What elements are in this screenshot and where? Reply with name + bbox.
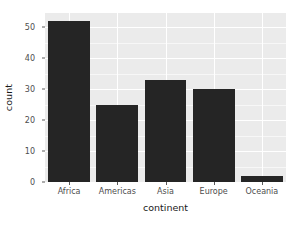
y-axis-title-label: count bbox=[4, 84, 15, 111]
y-axis-tick-label: 20 bbox=[25, 116, 35, 125]
bar bbox=[193, 89, 235, 182]
x-axis-tick-mark bbox=[214, 182, 215, 185]
x-axis-tick-label: Asia bbox=[157, 187, 174, 196]
bar bbox=[96, 105, 138, 182]
y-axis-tick-label: 10 bbox=[25, 147, 35, 156]
bar bbox=[145, 80, 187, 182]
x-axis-title: continent bbox=[45, 202, 286, 213]
gridline-major-vertical bbox=[262, 13, 263, 182]
y-axis-tick-label: 30 bbox=[25, 85, 35, 94]
x-axis-tick-label: Oceania bbox=[246, 187, 279, 196]
y-axis-tick-label: 40 bbox=[25, 54, 35, 63]
bar bbox=[48, 21, 90, 182]
x-axis-tick-mark bbox=[166, 182, 167, 185]
x-axis-tick-label: Africa bbox=[58, 187, 81, 196]
plot-panel bbox=[45, 13, 286, 182]
x-axis-tick-label: Europe bbox=[200, 187, 228, 196]
x-axis-tick-mark bbox=[117, 182, 118, 185]
x-axis-tick-label: Americas bbox=[99, 187, 136, 196]
x-axis-tick-mark bbox=[262, 182, 263, 185]
y-axis-tick-labels: 01020304050 bbox=[14, 13, 38, 182]
x-axis-tick-labels: AfricaAmericasAsiaEuropeOceania bbox=[45, 187, 286, 201]
y-axis-tick-label: 50 bbox=[25, 23, 35, 32]
y-axis-tick-label: 0 bbox=[30, 178, 35, 187]
x-axis-tick-marks bbox=[45, 182, 286, 186]
x-axis-tick-mark bbox=[69, 182, 70, 185]
bar-chart: count 01020304050 AfricaAmericasAsiaEuro… bbox=[0, 0, 291, 227]
